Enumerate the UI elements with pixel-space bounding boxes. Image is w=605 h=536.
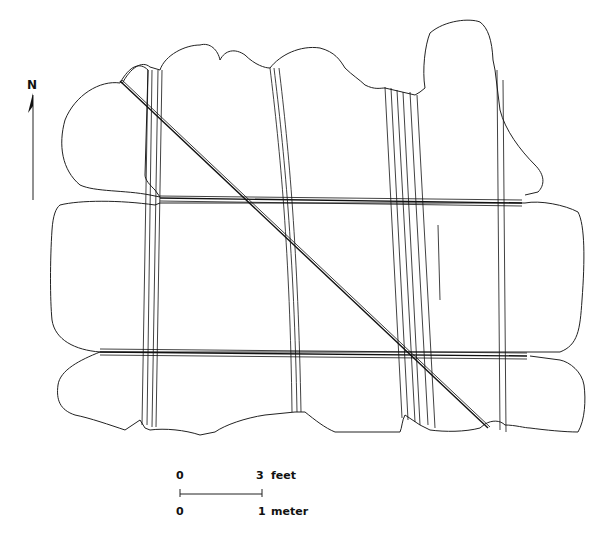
diagonal-line [120, 80, 490, 428]
scale-bottom-one: 1 [258, 505, 266, 518]
stone-top-left [62, 66, 160, 197]
scale-bottom-unit: meter [271, 505, 308, 518]
horizontal-line-lower [100, 349, 527, 359]
diagram-canvas [0, 0, 605, 536]
vertical-lines-1 [142, 70, 162, 427]
scale-top-three: 3 [256, 469, 264, 482]
scale-bar [180, 489, 262, 497]
scale-top-zero: 0 [176, 469, 184, 482]
vertical-lines-2 [270, 68, 301, 412]
vertical-lines-3 [385, 87, 440, 428]
horizontal-line-upper [160, 196, 522, 206]
scale-bottom-zero: 0 [176, 505, 184, 518]
scale-top-unit: feet [271, 469, 296, 482]
north-arrow-icon [28, 93, 33, 200]
north-label: N [27, 78, 37, 92]
